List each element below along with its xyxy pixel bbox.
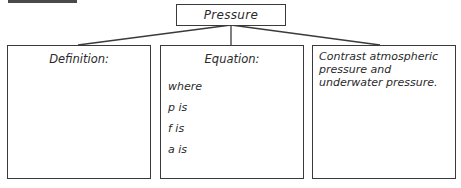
equation-heading: Equation: xyxy=(161,52,303,66)
title-text: Pressure xyxy=(204,8,258,22)
equation-variable-list: where p is f is a is xyxy=(168,79,202,163)
title-box: Pressure xyxy=(176,4,286,26)
definition-heading: Definition: xyxy=(8,52,150,66)
contrast-panel[interactable]: Contrast atmospheric pressure and underw… xyxy=(312,45,456,179)
equation-line-p: p is xyxy=(168,100,202,121)
equation-panel[interactable]: Equation: where p is f is a is xyxy=(160,45,304,179)
contrast-prompt: Contrast atmospheric pressure and underw… xyxy=(313,46,455,93)
equation-line-where: where xyxy=(168,79,202,100)
equation-line-a: a is xyxy=(168,142,202,163)
equation-line-f: f is xyxy=(168,121,202,142)
definition-panel[interactable]: Definition: xyxy=(7,45,151,179)
